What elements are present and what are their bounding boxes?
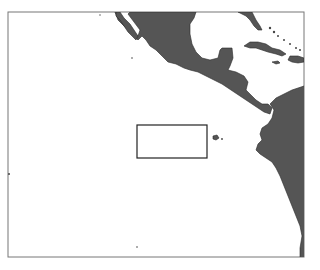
island <box>136 246 138 248</box>
island <box>99 14 100 15</box>
island <box>131 57 133 59</box>
island <box>8 173 10 175</box>
map <box>0 0 320 270</box>
